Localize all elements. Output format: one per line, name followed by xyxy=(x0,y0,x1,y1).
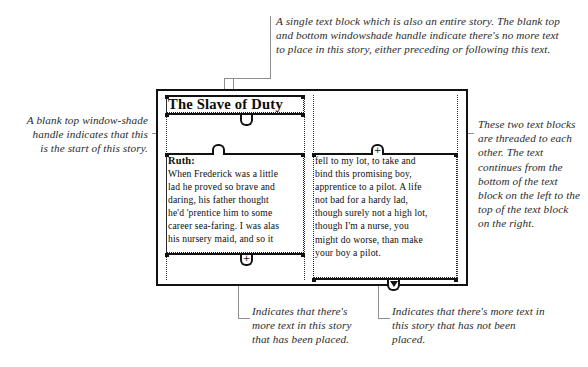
leader-bottom-right-horizontal xyxy=(378,318,390,319)
left-block-heading: Ruth: xyxy=(168,154,304,167)
title-block-bottom-shade-bar[interactable] xyxy=(166,113,304,115)
left-block-line: When Frederick was a little xyxy=(168,167,304,180)
shade-endcap-right[interactable] xyxy=(301,253,305,257)
shade-endcap-right[interactable] xyxy=(301,95,305,99)
title-text-block[interactable]: The Slave of Duty xyxy=(166,95,304,123)
left-block-line: lad he proved so brave and xyxy=(168,180,304,193)
shade-endcap-left[interactable] xyxy=(165,113,169,117)
callout-bottom-right-text: Indicates that there's more text in this… xyxy=(392,304,548,347)
right-block-line: apprentice to a pilot. A life xyxy=(315,180,457,193)
right-block-line: though surely not a high lot, xyxy=(315,206,457,219)
right-block-body: fell to my lot, to take and bind this pr… xyxy=(315,154,457,259)
leader-top-vertical-c xyxy=(233,78,234,89)
left-text-block[interactable]: Ruth: When Frederick was a little lad he… xyxy=(166,153,304,259)
left-block-bottom-shade-bar[interactable]: + xyxy=(166,253,304,255)
right-block-line: fell to my lot, to take and xyxy=(315,154,457,167)
right-block-line: your boy a pilot. xyxy=(315,246,457,259)
document-page-frame[interactable]: The Slave of Duty xyxy=(156,89,468,286)
title-text: The Slave of Duty xyxy=(168,96,283,112)
title-block-top-shade-bar[interactable] xyxy=(166,95,304,97)
leader-bottom-left-horizontal xyxy=(238,318,250,319)
shade-endcap-right[interactable] xyxy=(301,113,305,117)
right-text-block[interactable]: + fell to my lot, to take and bind this … xyxy=(313,153,457,283)
shade-endcap-left[interactable] xyxy=(312,278,316,282)
right-block-bottom-handle[interactable] xyxy=(387,280,400,291)
column-guide-right xyxy=(457,95,458,280)
callout-top-text: A single text block which is also an ent… xyxy=(276,14,566,57)
leader-top-horizontal xyxy=(224,78,271,79)
left-block-line: daring, his father thought xyxy=(168,193,304,206)
shade-endcap-right[interactable] xyxy=(454,278,458,282)
shade-endcap-left[interactable] xyxy=(165,95,169,99)
left-block-line: he'd 'prentice him to some xyxy=(168,206,304,219)
left-block-line: his nursery maid, and so it xyxy=(168,232,304,245)
figure-canvas: A single text block which is also an ent… xyxy=(0,0,588,367)
callout-bottom-left-text: Indicates that there's more text in this… xyxy=(252,304,372,347)
leader-top-vertical-a xyxy=(270,16,271,78)
callout-left-text: A blank top window-shade handle indicate… xyxy=(24,113,148,156)
left-block-bottom-handle[interactable]: + xyxy=(240,255,253,266)
callout-right-text: These two text blocks are threaded to ea… xyxy=(478,117,582,231)
handle-glyph-plus: + xyxy=(242,254,251,263)
title-block-bottom-handle[interactable] xyxy=(240,115,253,126)
right-block-bottom-shade-bar[interactable] xyxy=(313,278,457,280)
right-block-line: bind this promising boy, xyxy=(315,167,457,180)
shade-endcap-left[interactable] xyxy=(165,253,169,257)
left-block-line: career sea-faring. I was alas xyxy=(168,219,304,232)
right-block-line: though I'm a nurse, you xyxy=(315,219,457,232)
right-block-line: might do worse, than make xyxy=(315,233,457,246)
left-block-body: Ruth: When Frederick was a little lad he… xyxy=(168,154,304,246)
right-block-line: not bad for a hardy lad, xyxy=(315,193,457,206)
overset-triangle-icon xyxy=(390,281,398,287)
